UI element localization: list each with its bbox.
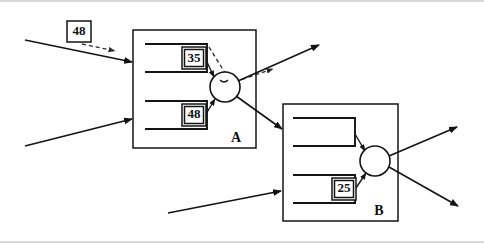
value-box-a-lower-48-label: 48 bbox=[188, 106, 202, 121]
node-a-circle[interactable] bbox=[210, 72, 240, 102]
arrow-b-node-out-up bbox=[389, 127, 457, 156]
arrow-input-a-upper bbox=[25, 40, 132, 62]
diagram-canvas: A B bbox=[0, 0, 484, 243]
frame-b-label: B bbox=[374, 203, 383, 218]
arrow-b-node-out-down bbox=[389, 167, 458, 206]
value-box-external-48[interactable]: 48 bbox=[67, 21, 91, 42]
value-box-b-lower-25[interactable]: 25 bbox=[332, 178, 356, 200]
frame-a-label: A bbox=[231, 130, 242, 145]
node-b-circle[interactable] bbox=[360, 146, 390, 176]
value-box-a-lower-48[interactable]: 48 bbox=[182, 104, 206, 126]
value-box-a-upper-35[interactable]: 35 bbox=[182, 47, 206, 69]
arrow-input-a-lower bbox=[25, 119, 132, 146]
flow-diagram: A B bbox=[0, 0, 484, 243]
value-box-external-48-label: 48 bbox=[73, 23, 87, 38]
value-box-b-lower-25-label: 25 bbox=[338, 180, 352, 195]
arrow-input-b-lower bbox=[168, 191, 281, 213]
value-box-a-upper-35-label: 35 bbox=[188, 50, 202, 65]
arrow-external-48-dashed bbox=[82, 44, 115, 51]
